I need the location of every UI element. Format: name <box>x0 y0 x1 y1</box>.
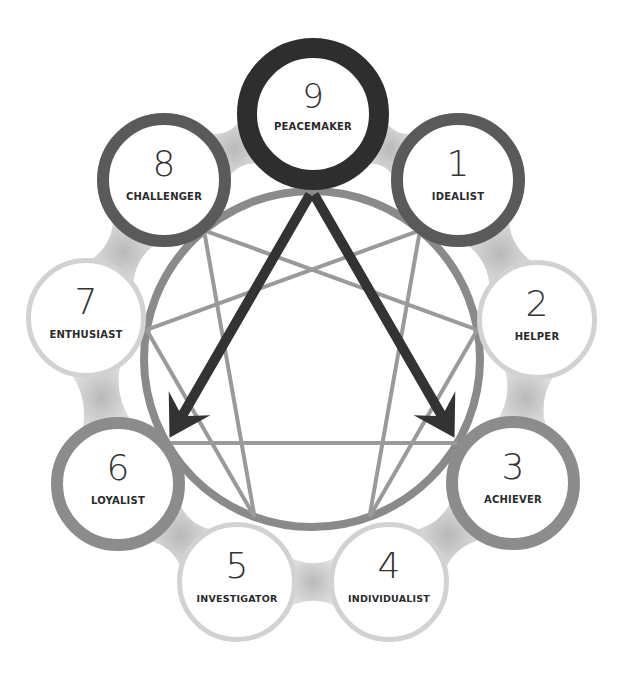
main-circle <box>144 191 480 527</box>
node-number: 4 <box>378 545 401 586</box>
node-number: 8 <box>153 143 176 184</box>
node-number: 5 <box>226 545 249 586</box>
node-label: CHALLENGER <box>126 191 202 202</box>
node-number: 1 <box>447 143 470 184</box>
type-node-5: 5INVESTIGATOR <box>180 525 295 640</box>
type-node-9: 9PEACEMAKER <box>247 48 379 180</box>
node-number: 9 <box>302 76 324 116</box>
enneagram-circle <box>144 191 480 527</box>
type-node-7: 7ENTHUSIAST <box>29 261 144 376</box>
node-label: LOYALIST <box>91 495 145 506</box>
node-number: 7 <box>75 281 98 322</box>
type-node-1: 1IDEALIST <box>397 119 519 241</box>
node-label: PEACEMAKER <box>274 121 352 132</box>
node-number: 2 <box>526 283 549 324</box>
type-node-2: 2HELPER <box>480 263 595 378</box>
type-node-3: 3ACHIEVER <box>452 422 574 544</box>
enneagram-diagram: 9PEACEMAKER1IDEALIST2HELPER3ACHIEVER4IND… <box>0 0 630 683</box>
type-node-6: 6LOYALIST <box>57 423 179 545</box>
node-label: ACHIEVER <box>484 494 542 505</box>
node-label: IDEALIST <box>432 191 484 202</box>
node-label: INDIVIDUALIST <box>348 593 430 604</box>
node-number: 6 <box>107 447 130 488</box>
type-node-4: 4INDIVIDUALIST <box>332 525 447 640</box>
node-label: HELPER <box>515 331 560 342</box>
node-number: 3 <box>502 446 525 487</box>
type-node-8: 8CHALLENGER <box>103 119 225 241</box>
node-label: INVESTIGATOR <box>197 593 278 604</box>
node-label: ENTHUSIAST <box>49 329 122 340</box>
